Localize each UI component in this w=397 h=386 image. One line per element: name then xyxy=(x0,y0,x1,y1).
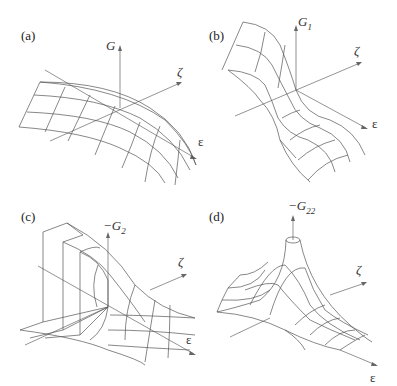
surface-plot-a xyxy=(0,0,200,190)
zeta-axis-label-a: ζ xyxy=(177,64,182,80)
zeta-axis-d xyxy=(330,283,365,295)
epsilon-axis-back-d xyxy=(230,318,270,337)
vertical-axis-label-d: −G22 xyxy=(288,198,315,216)
vertical-axis-label-c: −G2 xyxy=(103,218,126,236)
surface-plot-d xyxy=(200,190,397,379)
surface-plot-c xyxy=(0,190,200,379)
epsilon-axis-label-d: ε xyxy=(370,370,375,386)
panel-a: (a) G ζ ε xyxy=(0,0,200,190)
zeta-axis-label-c: ζ xyxy=(178,254,183,270)
panel-b: (b) G1 ζ ε xyxy=(200,0,397,190)
zeta-axis-label-b: ζ xyxy=(354,43,359,59)
epsilon-axis-d xyxy=(340,350,376,365)
vertical-axis-label-b: G1 xyxy=(298,14,312,32)
epsilon-axis-label-c: ε xyxy=(186,332,191,348)
zeta-axis-b xyxy=(235,63,360,116)
zeta-axis-c xyxy=(150,275,185,290)
epsilon-axis-b xyxy=(296,90,366,128)
panel-d: (d) −G22 ζ ε xyxy=(200,190,397,379)
zeta-axis-label-d: ζ xyxy=(356,262,361,278)
panel-c: (c) −G2 ζ ε xyxy=(0,190,200,379)
epsilon-axis-label-b: ε xyxy=(372,116,377,132)
vertical-axis-label-a: G xyxy=(106,38,115,56)
